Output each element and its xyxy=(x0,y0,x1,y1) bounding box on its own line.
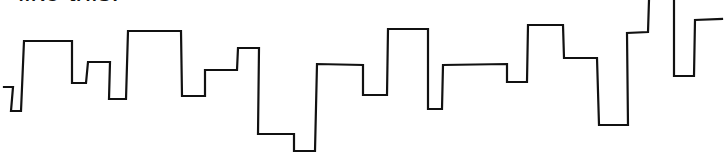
step-line-drawing xyxy=(0,0,727,168)
main-step-line xyxy=(4,0,649,151)
tail-step-line xyxy=(674,0,722,76)
